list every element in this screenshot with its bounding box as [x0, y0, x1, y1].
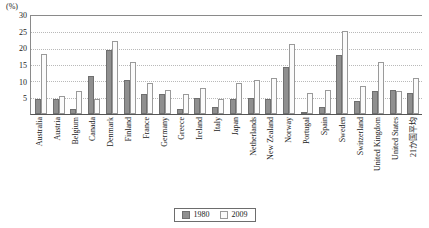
x-axis-category: Germany [156, 116, 174, 188]
bar-group [192, 16, 210, 114]
y-axis-unit-label: (%) [6, 2, 18, 11]
x-axis-category: Australia [31, 116, 49, 188]
x-axis-category-label: 21か国平均 [410, 117, 418, 157]
y-axis-tick-label: 15 [19, 61, 27, 70]
x-axis-category-label: France [143, 117, 151, 139]
x-axis-category: Spain [316, 116, 334, 188]
bar-2009 [76, 91, 82, 114]
legend-swatch-2009-icon [220, 211, 228, 219]
x-axis-category: Denmark [102, 116, 120, 188]
x-axis-category: Finland [120, 116, 138, 188]
bar-group [316, 16, 334, 114]
bar-group [227, 16, 245, 114]
x-axis-category: Japan [227, 116, 245, 188]
bar-2009 [378, 62, 384, 114]
x-axis-category: Portugal [298, 116, 316, 188]
bar-2009 [254, 80, 260, 114]
bar-group [387, 16, 405, 114]
x-axis-category-label: Sweden [339, 117, 347, 142]
x-axis-category-label: Spain [321, 117, 329, 135]
legend-item-1980: 1980 [182, 211, 210, 219]
bar-2009 [41, 54, 47, 114]
x-axis-category: 21か国平均 [405, 116, 423, 188]
y-axis-tick-label: 30 [19, 11, 27, 20]
chart-legend: 1980 2009 [174, 208, 256, 222]
x-axis-category-label: Canada [89, 117, 97, 141]
x-axis-category-label: Italy [214, 117, 222, 132]
bar-2009 [396, 91, 402, 114]
bar-group [351, 16, 369, 114]
x-axis-category-label: Japan [232, 117, 240, 135]
bar-group [333, 16, 351, 114]
bar-2009 [289, 44, 295, 114]
bar-2009 [360, 86, 366, 114]
x-axis-category: Italy [209, 116, 227, 188]
bar-group [50, 16, 68, 114]
bar-group [245, 16, 263, 114]
bar-group [280, 16, 298, 114]
y-axis-tick-label: 5 [23, 94, 27, 103]
bar-2009 [130, 62, 136, 114]
y-axis-tick-label: 10 [19, 77, 27, 86]
x-axis-category: Netherlands [245, 116, 263, 188]
x-axis-category: Switzerland [352, 116, 370, 188]
bar-2009 [183, 94, 189, 114]
bar-2009 [147, 83, 153, 114]
x-axis-category: New Zealand [263, 116, 281, 188]
x-axis-category-label: Austria [54, 117, 62, 141]
bar-group [138, 16, 156, 114]
bar-2009 [218, 99, 224, 114]
bar-2009 [165, 90, 171, 115]
bar-2009 [271, 78, 277, 114]
legend-swatch-1980-icon [182, 211, 190, 219]
bar-2009 [413, 78, 419, 114]
bar-group [32, 16, 50, 114]
x-axis-category-label: Ireland [196, 117, 204, 140]
x-axis-category-label: Norway [285, 117, 293, 143]
x-axis-category-label: United States [392, 117, 400, 160]
x-axis-category-label: Netherlands [250, 117, 258, 156]
x-axis-category: United States [387, 116, 405, 188]
x-axis-category: Ireland [191, 116, 209, 188]
bar-group [121, 16, 139, 114]
bar-group [67, 16, 85, 114]
x-axis-category: Norway [280, 116, 298, 188]
x-axis-category-label: United Kingdom [374, 117, 382, 171]
bar-2009 [200, 88, 206, 114]
bar-2009 [94, 99, 100, 114]
chart-root: (%) 30252015105 AustraliaAustriaBelgiumC… [0, 0, 429, 228]
x-axis-category: United Kingdom [369, 116, 387, 188]
x-axis-category-label: Greece [178, 117, 186, 140]
bar-group [174, 16, 192, 114]
x-axis-category: Sweden [334, 116, 352, 188]
x-axis-category: Austria [49, 116, 67, 188]
bar-2009 [307, 93, 313, 114]
x-axis-category: Canada [84, 116, 102, 188]
x-axis-category-label: Finland [125, 117, 133, 141]
plot-area [30, 15, 422, 115]
x-axis-category-label: Belgium [72, 117, 80, 145]
bar-2009 [236, 83, 242, 114]
x-axis-category-label: Germany [161, 117, 169, 147]
legend-label-2009: 2009 [232, 211, 248, 219]
bar-group [209, 16, 227, 114]
x-axis-category: Greece [174, 116, 192, 188]
x-axis-category: Belgium [67, 116, 85, 188]
bar-2009 [59, 96, 65, 114]
x-axis-category-labels: AustraliaAustriaBelgiumCanadaDenmarkFinl… [31, 116, 423, 188]
plot-wrapper: 30252015105 [30, 15, 422, 115]
x-axis-category-label: Denmark [107, 117, 115, 147]
x-axis-category-label: Australia [36, 117, 44, 146]
bar-group [85, 16, 103, 114]
bar-group [103, 16, 121, 114]
bar-groups [32, 16, 422, 114]
legend-label-1980: 1980 [194, 211, 210, 219]
legend-item-2009: 2009 [220, 211, 248, 219]
bar-group [263, 16, 281, 114]
x-axis-category-label: Switzerland [357, 117, 365, 155]
bar-group [156, 16, 174, 114]
bar-2009 [342, 31, 348, 114]
bar-group [404, 16, 422, 114]
bar-2009 [112, 41, 118, 115]
y-axis-tick-label: 20 [19, 44, 27, 53]
